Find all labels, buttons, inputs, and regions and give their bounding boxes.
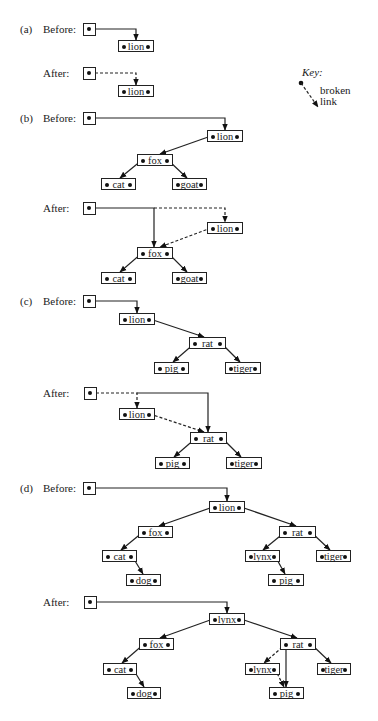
panel-d-after-link-0 — [91, 602, 227, 613]
panel-d-after-node-dog: dog — [127, 687, 161, 699]
panel-c-after-label: After: — [43, 387, 69, 399]
panel-tag-a: (a) — [20, 23, 32, 35]
panel-d-after-node-tiger: tiger — [317, 663, 351, 675]
right-pointer-dot-icon — [343, 668, 347, 672]
panel-d-after-link-2 — [241, 619, 297, 638]
panel-d-before-root-pointer — [83, 482, 96, 495]
panel-b-after-root-pointer — [83, 202, 96, 215]
right-pointer-dot-icon — [272, 555, 276, 559]
panel-b-after-node-cat: cat — [101, 272, 136, 284]
panel-b-after-label: After: — [43, 202, 69, 214]
pointer-dot-icon — [87, 116, 91, 120]
panel-c-before-node-pig: pig — [154, 362, 189, 374]
panel-d-after-node-fox: fox — [139, 638, 174, 650]
right-pointer-dot-icon — [343, 555, 347, 559]
panel-d-before-label: Before: — [43, 482, 76, 494]
right-pointer-dot-icon — [128, 183, 132, 187]
right-pointer-dot-icon — [237, 618, 241, 622]
pointer-dot-icon — [87, 206, 91, 210]
panel-c-before-root-pointer — [83, 295, 96, 308]
panel-a-after-label: After: — [43, 67, 69, 79]
right-pointer-dot-icon — [146, 45, 150, 49]
panel-b-before-root-pointer — [83, 112, 96, 125]
panel-d-before-node-dog: dog — [126, 574, 161, 586]
right-pointer-dot-icon — [219, 437, 223, 441]
panel-d-before-node-fox: fox — [138, 526, 173, 538]
panel-d-before-link-1 — [159, 507, 213, 526]
pointer-dot-icon — [88, 600, 92, 604]
panel-c-before-link-0 — [90, 301, 137, 313]
panel-tag-d: (d) — [20, 482, 33, 494]
pointer-dot-icon — [87, 71, 91, 75]
right-pointer-dot-icon — [296, 692, 300, 696]
panel-b-after-node-fox: fox — [137, 247, 173, 259]
panel-d-after-link-1 — [160, 619, 213, 638]
bst-deletion-diagram: (a) Before: After: (b) Before: After: (c… — [0, 0, 378, 721]
panel-b-before-link-1 — [160, 136, 211, 154]
panel-b-after-node-lion: lion — [207, 222, 243, 234]
panel-b-before-node-cat: cat — [101, 178, 136, 190]
panel-d-after-node-cat: cat — [103, 663, 137, 675]
panel-c-after-node-rat: rat — [190, 432, 227, 444]
panel-d-before-node-pig: pig — [268, 574, 304, 586]
right-pointer-dot-icon — [166, 643, 170, 647]
pointer-dot-icon — [88, 391, 92, 395]
panel-d-before-node-tiger: tiger — [316, 550, 351, 562]
panel-c-before-link-1 — [150, 319, 204, 337]
panel-a-after-root-pointer — [83, 67, 96, 80]
panel-a-before-node-lion: lion — [118, 40, 154, 52]
right-pointer-dot-icon — [272, 668, 276, 672]
panel-a-after-node-lion: lion — [118, 85, 154, 97]
right-pointer-dot-icon — [165, 252, 169, 256]
panel-b-after-node-goat: goat — [172, 272, 207, 284]
panel-b-before-node-lion: lion — [207, 130, 243, 142]
panel-c-after-node-pig: pig — [155, 457, 190, 469]
panel-b-after-link-2-broken — [160, 228, 211, 247]
panel-d-before-node-rat: rat — [279, 526, 316, 538]
panel-tag-c: (c) — [20, 295, 32, 307]
right-pointer-dot-icon — [308, 531, 312, 535]
panel-a-before-label: Before: — [43, 23, 76, 35]
right-pointer-dot-icon — [129, 555, 133, 559]
panel-b-after-link-0 — [90, 208, 154, 247]
panel-d-after-root-pointer — [84, 596, 97, 609]
panel-d-before-node-lion: lion — [209, 501, 245, 513]
panel-c-after-root-pointer — [84, 387, 97, 400]
right-pointer-dot-icon — [165, 159, 169, 163]
panel-d-before-link-2 — [241, 507, 296, 526]
right-pointer-dot-icon — [199, 183, 203, 187]
panel-b-before-label: Before: — [43, 112, 76, 124]
panel-d-before-node-lynx: lynx — [245, 550, 280, 562]
panel-b-after-link-1-broken — [154, 208, 225, 222]
right-pointer-dot-icon — [165, 531, 169, 535]
panel-d-after-node-lynx-root: lynx — [209, 613, 245, 625]
panel-d-after-node-lynx: lynx — [245, 663, 280, 675]
right-pointer-dot-icon — [237, 506, 241, 510]
right-pointer-dot-icon — [153, 692, 157, 696]
link-arrows-layer — [0, 0, 378, 721]
right-pointer-dot-icon — [254, 462, 258, 466]
panel-c-before-node-tiger: tiger — [225, 362, 261, 374]
right-pointer-dot-icon — [129, 668, 133, 672]
right-pointer-dot-icon — [147, 318, 151, 322]
right-pointer-dot-icon — [218, 342, 222, 346]
right-pointer-dot-icon — [296, 579, 300, 583]
right-pointer-dot-icon — [235, 135, 239, 139]
panel-c-after-link-2-broken — [150, 414, 204, 432]
pointer-dot-icon — [87, 27, 91, 31]
panel-b-before-link-0 — [90, 118, 225, 130]
panel-c-before-node-lion: lion — [119, 313, 155, 325]
panel-d-after-node-rat: rat — [280, 638, 316, 650]
legend-line-2: link — [320, 95, 337, 107]
panel-b-before-node-goat: goat — [172, 178, 207, 190]
panel-c-after-link-0-broken — [91, 393, 137, 408]
right-pointer-dot-icon — [182, 462, 186, 466]
right-pointer-dot-icon — [199, 277, 203, 281]
panel-d-before-node-cat: cat — [102, 550, 137, 562]
right-pointer-dot-icon — [235, 227, 239, 231]
panel-d-after-node-pig: pig — [269, 687, 304, 699]
right-pointer-dot-icon — [253, 367, 257, 371]
panel-c-before-label: Before: — [43, 295, 76, 307]
right-pointer-dot-icon — [181, 367, 185, 371]
panel-a-before-link-0 — [90, 29, 136, 40]
